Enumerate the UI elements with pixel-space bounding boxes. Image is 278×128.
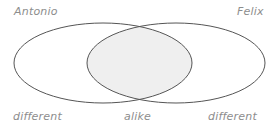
venn-diagram-canvas: Antonio Felix different alike different [0,0,278,128]
right-only-region-label: different [208,110,257,123]
right-set-label: Felix [237,5,264,18]
intersection-region-label: alike [124,110,151,123]
left-only-region-label: different [13,110,62,123]
intersection-region [87,23,265,103]
venn-diagram-graphic [0,0,278,128]
intersection-fill [87,23,265,103]
left-set-label: Antonio [14,5,58,18]
